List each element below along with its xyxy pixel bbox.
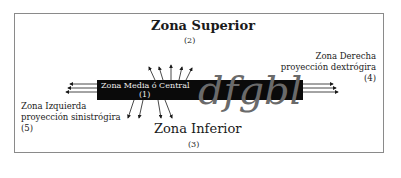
down-arrow-1 xyxy=(128,100,134,118)
down-arrow-4 xyxy=(165,100,172,118)
down-arrow-3 xyxy=(158,100,161,118)
up-arrow-4 xyxy=(179,67,182,80)
up-arrow-2 xyxy=(159,67,163,80)
up-arrow-1 xyxy=(149,67,155,80)
up-arrow-5 xyxy=(186,68,192,80)
handwriting-sample: dfgbl xyxy=(198,67,302,113)
arrows-overlay: dfgbl xyxy=(0,0,401,178)
down-arrow-2 xyxy=(139,100,143,118)
